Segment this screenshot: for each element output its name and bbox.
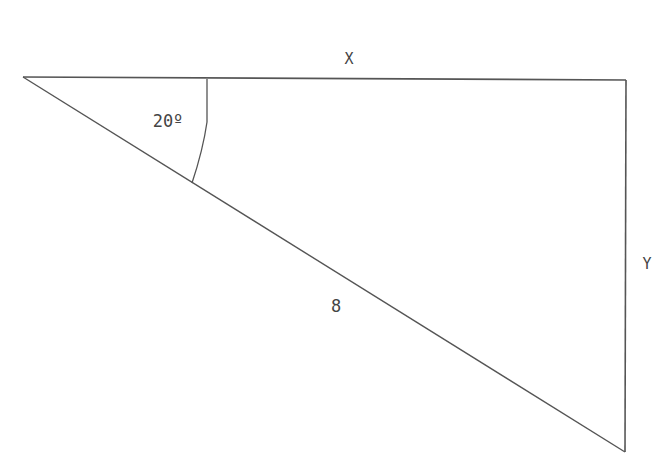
side-x — [23, 77, 626, 80]
hypotenuse — [23, 77, 625, 452]
label-hypotenuse: 8 — [331, 296, 341, 316]
label-x: X — [344, 50, 353, 68]
triangle-diagram: X Y 8 20º — [0, 0, 667, 470]
label-y: Y — [642, 255, 651, 273]
angle-arc — [192, 79, 207, 183]
side-y — [625, 80, 626, 452]
label-angle: 20º — [153, 111, 184, 131]
